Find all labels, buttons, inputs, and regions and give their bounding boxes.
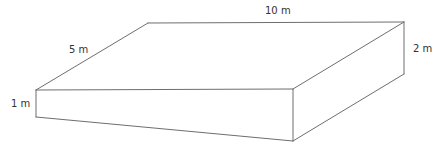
diagram-container: 10 m 5 m 2 m 1 m: [0, 0, 444, 144]
label-deep-end: 2 m: [413, 44, 432, 54]
label-length: 10 m: [265, 6, 291, 16]
front-face: [36, 89, 293, 141]
label-width: 5 m: [69, 45, 88, 55]
label-shallow-end: 1 m: [11, 99, 30, 109]
prism-drawing: [0, 0, 444, 144]
